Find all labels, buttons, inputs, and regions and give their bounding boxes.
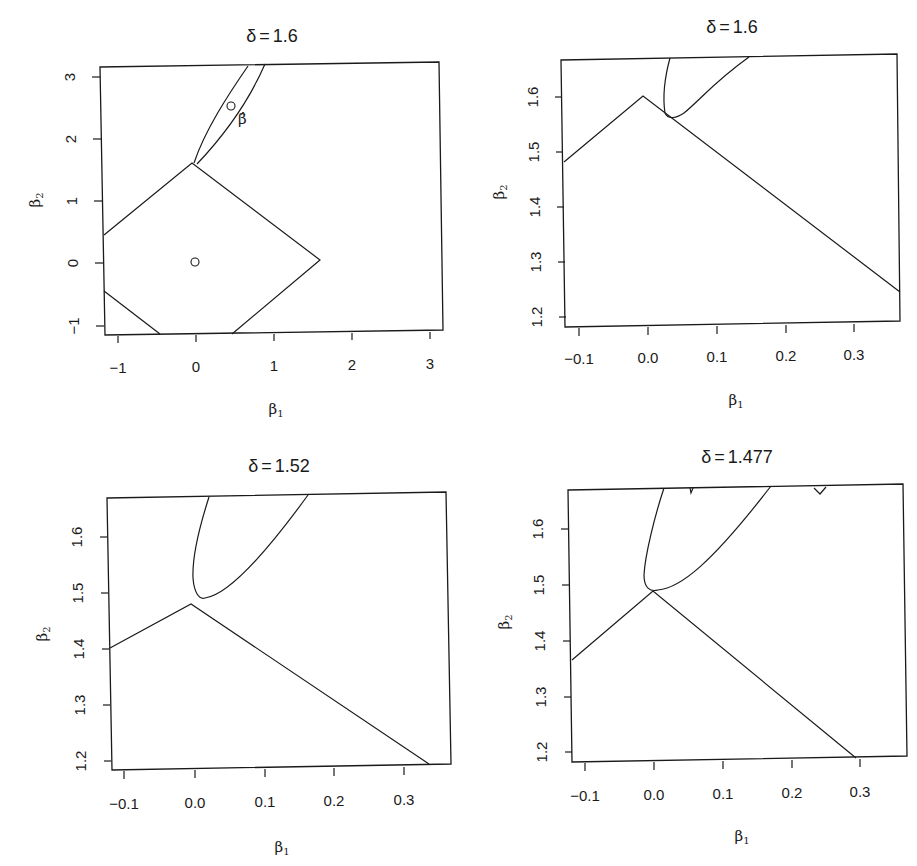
plot-frame [561,54,900,327]
svg-text:−0.1: −0.1 [564,350,594,367]
contour-curve [193,495,308,598]
svg-text:0.1: 0.1 [713,785,734,802]
y-axis-label: β2 [33,626,52,641]
x-axis-label: β1 [734,827,749,846]
plot-frame [100,62,443,335]
panel-top-right: δ=1.6 −0.1 0.0 0.1 0.2 0.3 1.6 1.5 1.4 1… [490,17,900,410]
y-axis-label: β2 [490,184,509,199]
svg-text:1.4: 1.4 [526,197,543,218]
panel-bottom-left: δ=1.52 −0.1 0.0 0.1 0.2 0.3 1.6 1.5 1.4 … [33,456,451,857]
svg-text:1.5: 1.5 [530,575,547,596]
svg-text:0.0: 0.0 [185,794,206,811]
svg-text:0.1: 0.1 [255,793,276,810]
top-edge-mark [690,488,693,493]
svg-text:1.3: 1.3 [527,252,544,273]
y-axis: 3 2 1 0 −1 [61,73,104,335]
x-axis-label: β1 [728,391,743,410]
svg-text:2: 2 [348,356,356,373]
x-axis: −0.1 0.0 0.1 0.2 0.3 [109,767,414,812]
svg-text:1.4: 1.4 [70,639,87,660]
svg-text:1: 1 [63,197,80,205]
svg-text:0.0: 0.0 [644,786,665,803]
svg-text:1.2: 1.2 [72,751,89,772]
contour-ellipse [194,64,265,164]
constraint-boundary [104,163,320,334]
svg-text:1.6: 1.6 [68,527,85,548]
svg-text:1.2: 1.2 [533,742,550,763]
svg-text:0: 0 [192,358,200,375]
beta-hat-marker [227,102,235,110]
svg-text:0.3: 0.3 [844,346,865,363]
plot-frame [568,484,907,762]
y-axis-label: β2 [26,192,45,207]
panel-title: δ=1.52 [248,456,310,476]
svg-text:0.2: 0.2 [782,784,803,801]
panel-title: δ=1.477 [701,447,773,467]
svg-text:−0.1: −0.1 [570,787,600,804]
svg-text:1.4: 1.4 [531,631,548,652]
constraint-boundary [572,591,856,758]
panel-bottom-right: δ=1.477 −0.1 0.0 0.1 0.2 0.3 1.6 1.5 1.4… [495,447,907,846]
y-axis: 1.6 1.5 1.4 1.3 1.2 [529,519,572,763]
beta-hat-label: β̂ [238,110,247,128]
svg-text:0.0: 0.0 [638,349,659,366]
constraint-boundary-lower [104,291,160,334]
svg-text:1.3: 1.3 [532,687,549,708]
svg-text:1: 1 [270,357,278,374]
svg-text:−0.1: −0.1 [109,795,139,812]
x-axis: −0.1 0.0 0.1 0.2 0.3 [570,759,870,804]
x-axis: −1 0 1 2 3 [109,332,434,376]
x-axis: −0.1 0.0 0.1 0.2 0.3 [564,324,864,367]
contour-curve [664,57,749,118]
svg-text:0.3: 0.3 [394,791,415,808]
panel-title: δ=1.6 [246,26,298,46]
y-axis-label: β2 [495,614,514,629]
svg-text:1.6: 1.6 [524,87,541,108]
figure: δ=1.6 −1 0 1 2 3 3 2 1 0 −1 β1 [0,0,917,866]
panel-top-left: δ=1.6 −1 0 1 2 3 3 2 1 0 −1 β1 [26,26,443,419]
svg-text:−1: −1 [109,359,126,376]
panel-title: δ=1.6 [706,17,758,37]
svg-text:3: 3 [426,355,434,372]
svg-text:0.2: 0.2 [776,347,797,364]
constraint-boundary [564,96,900,292]
svg-text:0: 0 [64,259,81,267]
constraint-boundary [110,604,429,764]
x-axis-label: β1 [268,400,283,419]
y-axis: 1.6 1.5 1.4 1.3 1.2 [524,87,566,328]
origin-marker [191,258,199,266]
svg-text:1.5: 1.5 [69,583,86,604]
svg-text:0.2: 0.2 [324,792,345,809]
svg-text:1.6: 1.6 [529,519,546,540]
svg-text:3: 3 [61,73,78,81]
svg-text:0.1: 0.1 [707,348,728,365]
svg-text:1.2: 1.2 [528,307,545,328]
svg-text:2: 2 [62,135,79,143]
y-axis: 1.6 1.5 1.4 1.3 1.2 [68,527,111,772]
svg-text:1.5: 1.5 [525,142,542,163]
svg-text:1.3: 1.3 [71,695,88,716]
svg-text:0.3: 0.3 [850,783,871,800]
contour-curve [644,486,771,590]
svg-text:−1: −1 [65,317,82,334]
top-edge-mark [814,487,826,494]
x-axis-label: β1 [274,838,289,857]
